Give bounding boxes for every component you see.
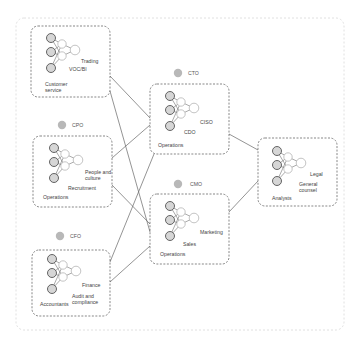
group-cpo: CPO People and culture Recruitment Opera… (33, 121, 112, 207)
network-icon (273, 147, 306, 186)
label-right-2: culture (85, 175, 101, 181)
label-bottom: Analysts (272, 195, 292, 201)
outer-container (16, 18, 344, 330)
role-label: CTO (188, 70, 199, 76)
label-mid-2: compliance (72, 299, 98, 305)
group-border (258, 138, 337, 206)
label-mid: Recruitment (68, 185, 97, 191)
connector-g5-g6 (229, 181, 258, 212)
label-mid: Sales (183, 241, 196, 247)
label-right: Trading (81, 58, 99, 64)
label-bottom-2: service (45, 87, 62, 93)
connector-g2-g5 (112, 185, 150, 224)
label-bottom: Operations (160, 251, 186, 257)
role-label: CFO (70, 233, 81, 239)
label-right: Marketing (200, 229, 223, 235)
label-mid: VOC/BI (69, 66, 87, 72)
role-badge-icon (174, 69, 182, 77)
group-legal: Legal General counsel Analysts (258, 138, 337, 206)
label-right: CISO (200, 119, 213, 125)
network-icon (166, 202, 199, 241)
connector-g3-g5 (110, 246, 150, 282)
group-cmo: CMO Marketing Sales Operations (150, 180, 229, 264)
network-icon (166, 92, 199, 131)
label-bottom: Accountants (40, 301, 69, 307)
label-mid-2: counsel (299, 187, 317, 193)
org-network-diagram: Trading VOC/BI Customer service CPO Peop… (0, 0, 361, 340)
label-right: Finance (82, 282, 101, 288)
network-icon (50, 144, 83, 183)
group-customer-service: Trading VOC/BI Customer service (31, 26, 110, 97)
role-label: CMO (190, 181, 202, 187)
label-right: Legal (310, 171, 323, 177)
connector-g2-g4 (112, 125, 150, 158)
label-bottom: Operations (43, 194, 69, 200)
group-cfo: CFO Finance Audit and compliance Account… (32, 232, 110, 316)
role-badge-icon (174, 180, 182, 188)
label-bottom: Operations (158, 142, 184, 148)
role-badge-icon (56, 232, 64, 240)
network-icon (48, 255, 81, 294)
role-badge-icon (58, 121, 66, 129)
connector-g3-g4 (110, 154, 154, 262)
role-label: CPO (72, 122, 83, 128)
label-mid: CDO (184, 129, 196, 135)
connector-g4-g6 (229, 134, 258, 150)
group-cto: CTO CISO CDO Operations (150, 69, 229, 154)
